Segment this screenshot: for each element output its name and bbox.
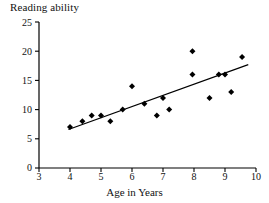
data-point-marker	[67, 124, 73, 130]
data-point-marker	[216, 72, 222, 78]
data-point-marker	[89, 112, 95, 118]
data-point-marker	[207, 95, 213, 101]
data-point-marker	[239, 54, 245, 60]
x-axis	[39, 168, 256, 172]
data-point-marker	[166, 107, 172, 113]
data-point-marker	[120, 107, 126, 113]
data-point-marker	[189, 48, 195, 54]
data-points	[67, 48, 245, 130]
y-axis	[35, 22, 39, 168]
x-axis-ticks	[39, 168, 256, 172]
x-axis-title: Age in Years	[0, 186, 269, 198]
data-point-marker	[129, 83, 135, 89]
data-point-marker	[189, 72, 195, 78]
data-point-marker	[107, 118, 113, 124]
plot-area	[0, 0, 269, 203]
data-point-marker	[228, 89, 234, 95]
reading-ability-scatter-chart: Reading ability 25 20 15 10 5 0 3 4 5 6 …	[0, 0, 269, 203]
data-point-marker	[154, 112, 160, 118]
